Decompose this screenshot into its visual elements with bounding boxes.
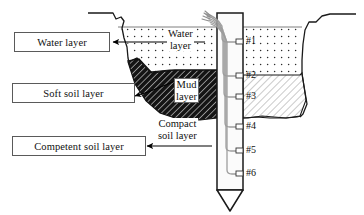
sensor-label-4: #4 xyxy=(246,120,256,131)
inline-label-mud-layer-line2: layer xyxy=(176,91,197,103)
inline-label-mud-layer-line1: Mud xyxy=(176,79,197,91)
pile-tip xyxy=(217,190,243,211)
sensor-label-1: #1 xyxy=(246,35,256,46)
callout-water-layer[interactable]: Water layer xyxy=(14,32,110,52)
sensor-label-6: #6 xyxy=(246,167,256,178)
figure-canvas: Water layer Soft soil layer Competent so… xyxy=(0,0,364,215)
callout-soft-soil-layer-label: Soft soil layer xyxy=(43,88,103,99)
inline-label-compact-soil-layer: Compact soil layer xyxy=(157,118,198,141)
callout-competent-soil-layer-label: Competent soil layer xyxy=(34,141,123,152)
callout-water-layer-label: Water layer xyxy=(37,37,87,48)
inline-label-water-layer-line1: Water xyxy=(168,28,193,40)
sensor-label-2: #2 xyxy=(246,69,256,80)
right-bank-profile xyxy=(300,14,356,117)
callout-competent-soil-layer[interactable]: Competent soil layer xyxy=(12,136,146,156)
sensor-label-5: #5 xyxy=(246,144,256,155)
callout-soft-soil-layer[interactable]: Soft soil layer xyxy=(12,83,135,103)
inline-label-compact-soil-layer-line1: Compact xyxy=(158,118,197,130)
inline-label-water-layer-line2: layer xyxy=(168,40,193,52)
inline-label-water-layer: Water layer xyxy=(167,28,194,51)
sensor-label-3: #3 xyxy=(246,90,256,101)
inline-label-mud-layer: Mud layer xyxy=(174,78,199,103)
inline-label-compact-soil-layer-line2: soil layer xyxy=(158,130,197,142)
